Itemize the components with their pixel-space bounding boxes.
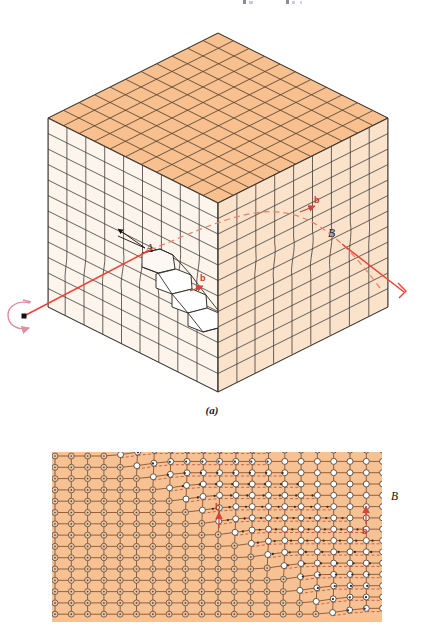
atom-slipped: [233, 481, 239, 487]
atom-normal: [52, 476, 58, 482]
atom-normal: [215, 543, 221, 549]
atom-normal: [231, 589, 237, 595]
atom-slipped: [347, 526, 353, 532]
atom-normal: [150, 611, 156, 617]
atom-normal: [166, 577, 172, 583]
atom-slipped: [282, 481, 288, 487]
atom-slipped: [249, 515, 255, 521]
atom-normal: [85, 510, 91, 516]
atom-normal: [281, 576, 287, 582]
atom-normal: [134, 577, 140, 583]
atom-normal: [117, 464, 123, 470]
atom-normal: [85, 555, 91, 561]
atom-slipped: [314, 504, 320, 510]
atom-normal: [52, 611, 58, 617]
atom-normal: [101, 589, 107, 595]
atom-normal: [150, 498, 156, 504]
atom-slipped: [331, 526, 337, 532]
atom-slipped: [249, 504, 255, 510]
atom-normal: [199, 566, 205, 572]
atom-slipped: [282, 538, 288, 544]
label-b-right: b: [314, 195, 320, 205]
atom-normal: [85, 566, 91, 572]
atom-normal: [68, 589, 74, 595]
atom-slipped: [331, 538, 337, 544]
atom-normal: [264, 611, 270, 617]
atom-normal: [52, 589, 58, 595]
atom-slipped: [298, 561, 304, 567]
atom-normal: [101, 577, 107, 583]
atom-normal: [117, 543, 123, 549]
atom-normal: [85, 600, 91, 606]
atom-normal: [150, 589, 156, 595]
atom-normal: [166, 532, 172, 538]
atom-normal: [101, 510, 107, 516]
atom-slipped: [347, 492, 353, 498]
atom-normal: [85, 476, 91, 482]
atom-normal: [117, 498, 123, 504]
atom-slipped: [217, 492, 223, 498]
atom-normal: [150, 510, 156, 516]
atom-normal: [117, 487, 123, 493]
atom-normal: [182, 543, 188, 549]
atom-slipped: [347, 504, 353, 510]
atom-slipped: [281, 563, 287, 569]
atom-normal: [248, 600, 254, 606]
atom-normal: [264, 600, 270, 606]
atom-slipped: [331, 504, 337, 510]
atom-normal: [280, 600, 286, 606]
atom-slipped: [199, 507, 205, 513]
atom-normal: [85, 521, 91, 527]
atom-normal: [166, 611, 172, 617]
atom-normal: [183, 509, 189, 515]
atom-normal: [134, 498, 140, 504]
atom-normal: [231, 600, 237, 606]
atom-slipped: [298, 492, 304, 498]
atom-normal: [297, 600, 303, 606]
atom-normal: [248, 566, 254, 572]
atom-normal: [150, 543, 156, 549]
atom-slipped: [363, 481, 369, 487]
atom-normal: [231, 611, 237, 617]
atom-normal: [52, 566, 58, 572]
atom-normal: [101, 464, 107, 470]
atom-slipped: [314, 526, 320, 532]
atom-normal: [182, 566, 188, 572]
atom-normal: [199, 532, 205, 538]
atom-normal: [166, 600, 172, 606]
atom-normal: [68, 510, 74, 516]
atom-slipped: [363, 549, 369, 555]
atom-normal: [215, 600, 221, 606]
atom-normal: [117, 611, 123, 617]
atom-normal: [166, 510, 172, 516]
atom-normal: [215, 611, 221, 617]
atom-slipped: [363, 470, 369, 476]
atom-slipped: [232, 529, 238, 535]
atom-normal: [117, 600, 123, 606]
atom-normal: [264, 577, 270, 583]
atom-normal: [134, 566, 140, 572]
atom-normal: [52, 532, 58, 538]
atom-slipped: [282, 515, 288, 521]
atom-normal: [85, 464, 91, 470]
atom-normal: [166, 498, 172, 504]
atom-normal: [85, 498, 91, 504]
atom-normal: [101, 487, 107, 493]
atom-normal: [68, 453, 74, 459]
atom-slipped: [282, 549, 288, 555]
atom-slipped: [347, 538, 353, 544]
atom-slipped: [297, 587, 303, 593]
atom-slipped: [363, 458, 369, 464]
atom-normal: [101, 555, 107, 561]
atom-slipped: [313, 598, 319, 604]
atom-normal: [150, 555, 156, 561]
atom-normal: [117, 589, 123, 595]
atom-normal: [199, 611, 205, 617]
atom-normal: [215, 577, 221, 583]
atom-normal: [117, 510, 123, 516]
atom-normal: [134, 476, 140, 482]
atom-normal: [68, 464, 74, 470]
atom-normal: [264, 589, 270, 595]
atom-normal: [117, 521, 123, 527]
atom-slipped: [347, 515, 353, 521]
